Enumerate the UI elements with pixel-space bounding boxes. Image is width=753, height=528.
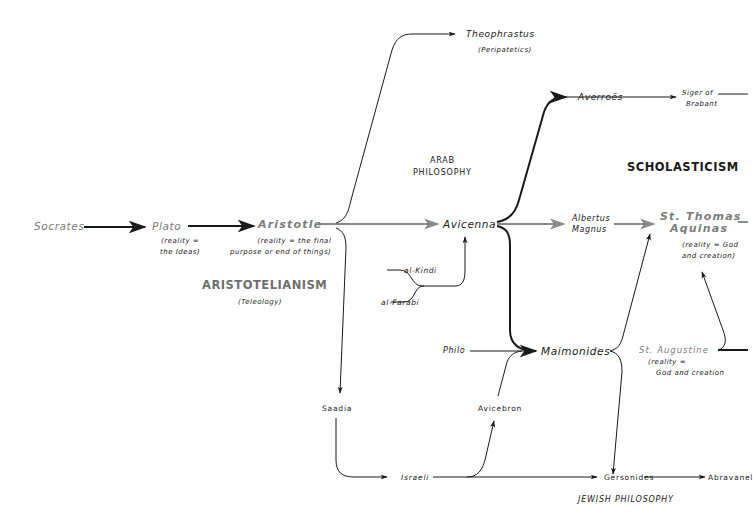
arrow-israeli-avicebron <box>467 421 494 477</box>
note-augustine: (reality = God and creation <box>648 357 725 379</box>
section-aristotelianism: ARISTOTELIANISM <box>202 280 327 292</box>
node-philo: Philo <box>443 347 465 355</box>
node-avicebron: Avicebron <box>478 405 522 413</box>
node-siger-of-brabant: Siger of Brabant <box>682 88 717 110</box>
section-aristotelianism-sub: (Teleology) <box>238 297 282 308</box>
arrow-saadia-israeli <box>336 418 387 477</box>
node-al-farabi: al-Farabi <box>381 299 419 307</box>
note-aristotle: (reality = the final purpose or end of t… <box>230 236 331 258</box>
note-aquinas: (reality = God and creation) <box>682 240 738 262</box>
section-arab-philosophy: ARAB PHILOSOPHY <box>413 155 472 179</box>
albertus-line2: Magnus <box>572 224 610 235</box>
section-jewish-philosophy: JEWISH PHILOSOPHY <box>578 496 674 504</box>
arrow-aristotle-saadia <box>336 228 346 393</box>
note-aquinas-line1: (reality = God <box>682 240 738 251</box>
node-st-thomas-aquinas: St. Thomas Aquinas <box>660 211 742 235</box>
note-plato-line1: (reality = <box>160 236 200 247</box>
node-avicenna: Avicenna <box>443 219 496 230</box>
note-augustine-line1: (reality = <box>648 357 725 368</box>
node-maimonides: Maimonides <box>541 346 610 357</box>
node-theophrastus: Theophrastus <box>466 30 535 39</box>
node-al-kindi: al-Kindi <box>404 267 437 275</box>
note-aristotle-line1: (reality = the final <box>230 236 331 247</box>
note-theophrastus: (Peripatetics) <box>478 45 532 56</box>
node-socrates: Socrates <box>34 221 84 232</box>
arrow-avicenna-averroes <box>497 97 566 222</box>
aquinas-line2: Aquinas <box>660 223 742 235</box>
node-plato: Plato <box>152 221 181 232</box>
note-augustine-line2: God and creation <box>648 368 725 379</box>
node-israeli: Israeli <box>401 474 429 482</box>
arrow-maimonides-gersonides <box>610 351 622 474</box>
arrow-augustine-aquinas <box>702 272 725 350</box>
note-plato-line2: the Ideas) <box>160 247 200 258</box>
albertus-line1: Albertus <box>572 213 610 224</box>
arrow-alkindi-avicenna <box>387 237 465 286</box>
node-gersonides: Gersonides <box>604 474 654 482</box>
node-aristotle: Aristotle <box>258 219 322 230</box>
section-arab-line1: ARAB <box>413 155 472 167</box>
arrow-maimonides-aquinas <box>610 234 650 351</box>
siger-line1: Siger of <box>682 88 717 99</box>
arrow-avicebron-maimonides <box>498 351 522 396</box>
node-averroes: Averroës <box>578 93 623 102</box>
arrow-aristotle-theophrastus <box>336 34 455 223</box>
node-abravanel: Abravanel <box>708 474 753 482</box>
arrow-avicenna-maimonides <box>497 226 536 351</box>
note-aquinas-line2: and creation) <box>682 251 738 262</box>
note-plato: (reality = the Ideas) <box>160 236 200 258</box>
note-aristotle-line2: purpose or end of things) <box>230 247 331 258</box>
section-arab-line2: PHILOSOPHY <box>413 167 472 179</box>
node-st-augustine: St. Augustine <box>639 346 709 355</box>
siger-line2: Brabant <box>682 99 717 110</box>
section-scholasticism: SCHOLASTICISM <box>627 162 739 174</box>
node-albertus-magnus: Albertus Magnus <box>572 213 610 235</box>
node-saadia: Saadia <box>322 405 352 413</box>
